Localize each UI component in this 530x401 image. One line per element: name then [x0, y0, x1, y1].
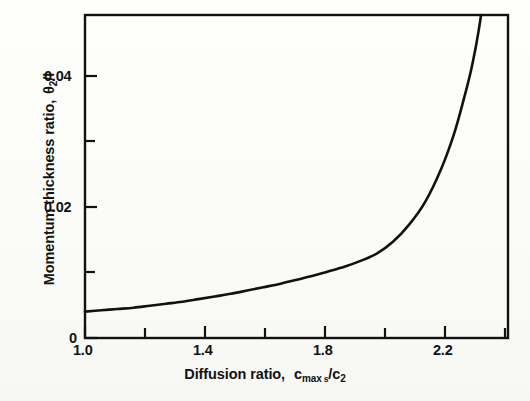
x-tick-label-4: 2.2 — [433, 342, 453, 358]
plot-area — [0, 0, 530, 401]
y-axis-title: Momentum thickness ratio,θ2/l — [41, 14, 59, 344]
y-axis-title-sub: 2 — [48, 81, 59, 86]
y-tick-label-0: 0 — [69, 330, 77, 346]
y-axis-title-divider: /l — [41, 73, 57, 81]
x-axis-title-sub-main: max — [302, 373, 322, 384]
figure-container: 1.0 1.4 1.8 2.2 0 0.02 0.04 Diffusion ra… — [0, 0, 530, 401]
plot-frame — [85, 15, 508, 338]
x-axis-title-prefix: Diffusion ratio, — [184, 366, 285, 382]
x-tick-label-3: 1.8 — [313, 342, 333, 358]
y-axis-title-prefix: Momentum thickness ratio, — [41, 100, 57, 285]
x-tick-label-2: 1.4 — [193, 342, 213, 358]
y-axis-title-symbol: θ — [41, 86, 57, 94]
x-axis-title-sub-denom: 2 — [340, 373, 345, 384]
data-curve — [85, 15, 481, 312]
x-axis-title-divider: /c — [328, 366, 340, 382]
y-axis-major-ticks — [85, 76, 97, 338]
x-axis-title: Diffusion ratio,cmaxs/c2 — [0, 366, 530, 384]
x-axis-title-symbol: c — [294, 366, 302, 382]
